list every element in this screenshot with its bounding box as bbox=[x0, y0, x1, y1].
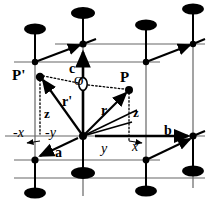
dotted-o-to-p-prime bbox=[44, 76, 78, 83]
lattice-atoms bbox=[24, 4, 204, 199]
label-p: P bbox=[120, 70, 129, 85]
label-vector-r-prime: r' bbox=[62, 95, 72, 109]
label-vector-r: r bbox=[101, 104, 107, 118]
atom bbox=[182, 4, 204, 15]
label-z-right: z bbox=[133, 106, 139, 119]
point-p-marker bbox=[125, 86, 133, 94]
atom bbox=[182, 166, 204, 177]
atom bbox=[24, 188, 46, 199]
atom bbox=[24, 24, 46, 35]
label-y: y bbox=[101, 142, 107, 156]
label-axis-a: a bbox=[55, 146, 62, 160]
edge-top-right-oblique bbox=[146, 45, 190, 62]
label-minus-x: -x bbox=[13, 126, 24, 140]
point-p-prime-marker bbox=[36, 73, 44, 81]
atom bbox=[135, 186, 157, 197]
label-x: x bbox=[132, 140, 138, 154]
label-origin: O bbox=[74, 74, 83, 87]
label-p-prime: P' bbox=[12, 68, 25, 83]
axis-minus-x-tick bbox=[27, 141, 40, 143]
edge-top-left-oblique bbox=[35, 45, 80, 62]
label-axis-c: c bbox=[69, 62, 75, 76]
dotted-o-to-p bbox=[88, 85, 124, 89]
figure-canvas: P' P O c b a r' r z z -x -y y x bbox=[0, 0, 211, 206]
atom bbox=[135, 20, 157, 31]
label-z-left: z bbox=[44, 107, 50, 120]
atom bbox=[71, 7, 95, 19]
label-axis-b: b bbox=[164, 124, 172, 138]
label-minus-y: -y bbox=[45, 126, 56, 140]
atom bbox=[71, 167, 95, 179]
edge-bottom-right-oblique bbox=[146, 139, 190, 160]
